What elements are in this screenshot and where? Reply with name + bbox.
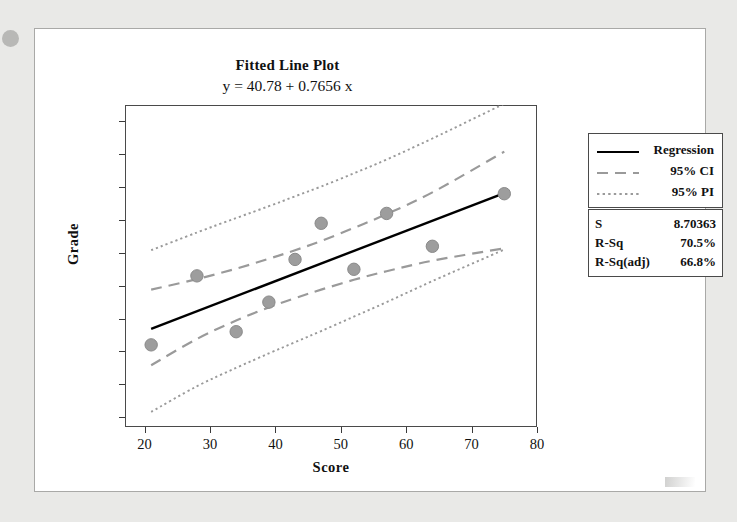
- legend-swatch-regression: [595, 144, 641, 156]
- scan-artifact-dot: [2, 30, 19, 47]
- legend-item-pi: 95% PI: [595, 181, 716, 202]
- legend: Regression 95% CI 95% PI: [588, 133, 723, 208]
- prediction-interval-upper: [151, 105, 504, 250]
- legend-label-pi: 95% PI: [641, 184, 716, 200]
- statistics-box: S 8.70363 R-Sq 70.5% R-Sq(adj) 66.8%: [588, 209, 723, 277]
- chart-subtitle: y = 40.78 + 0.7656 x: [35, 77, 540, 95]
- x-tick-mark: [472, 427, 473, 433]
- stat-value-rsq: 70.5%: [680, 235, 716, 251]
- data-point: [230, 326, 242, 338]
- x-tick-label: 80: [517, 436, 557, 453]
- plot-area: [125, 105, 537, 427]
- x-tick-label: 60: [386, 436, 426, 453]
- data-point: [191, 270, 203, 282]
- prediction-interval-lower: [151, 250, 504, 412]
- page-background: Fitted Line Plot y = 40.78 + 0.7656 x Gr…: [0, 0, 737, 522]
- legend-item-regression: Regression: [595, 139, 716, 160]
- x-tick-label: 20: [125, 436, 165, 453]
- stat-value-rsqadj: 66.8%: [680, 254, 716, 270]
- x-tick-label: 50: [321, 436, 361, 453]
- confidence-interval-lower: [151, 248, 504, 365]
- x-axis-title: Score: [125, 459, 537, 476]
- legend-swatch-pi: [595, 186, 641, 198]
- stat-key-rsq: R-Sq: [595, 235, 623, 251]
- stat-value-s: 8.70363: [674, 216, 716, 232]
- x-tick-label: 30: [190, 436, 230, 453]
- legend-label-regression: Regression: [641, 142, 716, 158]
- x-tick-mark: [210, 427, 211, 433]
- legend-swatch-ci: [595, 165, 641, 177]
- title-block: Fitted Line Plot y = 40.78 + 0.7656 x: [35, 57, 540, 95]
- legend-label-ci: 95% CI: [641, 163, 716, 179]
- stat-key-s: S: [595, 216, 602, 232]
- data-point: [145, 339, 157, 351]
- stat-row-rsq: R-Sq 70.5%: [595, 233, 716, 252]
- y-axis-title: Grade: [65, 223, 82, 265]
- x-tick-mark: [275, 427, 276, 433]
- stat-row-rsqadj: R-Sq(adj) 66.8%: [595, 252, 716, 271]
- chart-canvas: [125, 105, 537, 427]
- data-point: [289, 253, 301, 265]
- stat-row-s: S 8.70363: [595, 214, 716, 233]
- x-tick-mark: [537, 427, 538, 433]
- page-title: Fitted Line Plot: [35, 57, 540, 74]
- data-point: [263, 296, 275, 308]
- data-point: [315, 217, 327, 229]
- scan-artifact-smudge: [665, 477, 695, 487]
- stat-key-rsqadj: R-Sq(adj): [595, 254, 650, 270]
- data-point: [426, 240, 438, 252]
- x-tick-mark: [406, 427, 407, 433]
- x-tick-mark: [341, 427, 342, 433]
- x-tick-mark: [145, 427, 146, 433]
- x-tick-label: 70: [452, 436, 492, 453]
- data-point: [498, 188, 510, 200]
- data-point: [348, 263, 360, 275]
- data-point: [380, 207, 392, 219]
- figure-frame: Fitted Line Plot y = 40.78 + 0.7656 x Gr…: [34, 28, 706, 492]
- x-tick-label: 40: [255, 436, 295, 453]
- confidence-interval-upper: [151, 152, 504, 290]
- regression-line: [151, 193, 504, 329]
- legend-item-ci: 95% CI: [595, 160, 716, 181]
